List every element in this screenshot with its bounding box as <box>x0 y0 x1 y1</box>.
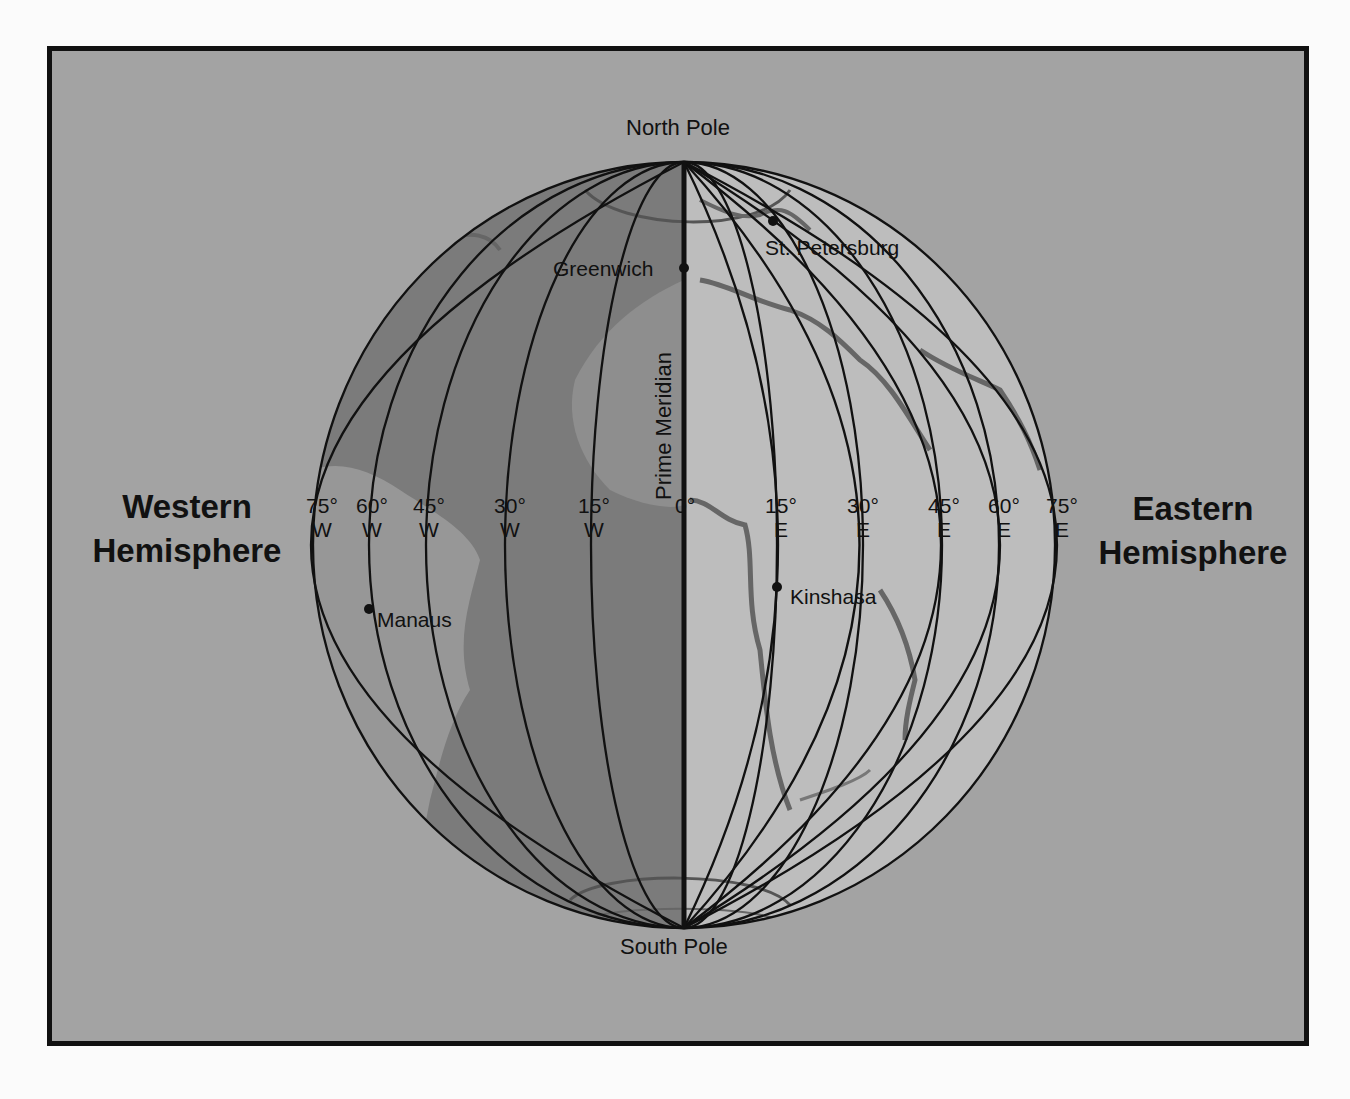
tick-60w: 60°W <box>350 494 394 542</box>
south-pole-label: South Pole <box>620 934 728 960</box>
prime-meridian-label: Prime Meridian <box>651 352 677 500</box>
tick-30e: 30°E <box>841 494 885 542</box>
st-petersburg-marker[interactable] <box>768 216 778 226</box>
greenwich-label: Greenwich <box>553 257 653 281</box>
tick-45e: 45°E <box>922 494 966 542</box>
north-pole-label: North Pole <box>626 115 730 141</box>
eastern-hemisphere-label: Eastern Hemisphere <box>1088 487 1298 575</box>
tick-45w: 45°W <box>407 494 451 542</box>
tick-30w: 30°W <box>488 494 532 542</box>
manaus-label: Manaus <box>377 608 452 632</box>
tick-0: 0° <box>663 494 707 518</box>
tick-15w: 15°W <box>572 494 616 542</box>
kinshasa-label: Kinshasa <box>790 585 876 609</box>
eastern-half <box>684 150 1084 950</box>
tick-75e: 75°E <box>1040 494 1084 542</box>
manaus-marker[interactable] <box>364 604 374 614</box>
tick-75w: 75°W <box>300 494 344 542</box>
st-petersburg-label: St. Petersburg <box>765 236 899 260</box>
kinshasa-marker[interactable] <box>772 582 782 592</box>
greenwich-marker[interactable] <box>679 263 689 273</box>
western-hemisphere-label: Western Hemisphere <box>82 485 292 573</box>
tick-15e: 15°E <box>759 494 803 542</box>
tick-60e: 60°E <box>982 494 1026 542</box>
